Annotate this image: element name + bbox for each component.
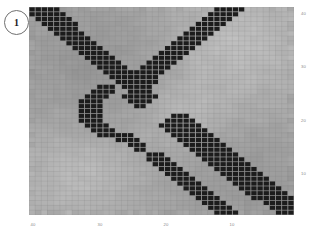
panel-label-text: 1 [14, 18, 19, 28]
y-axis-tick-label: 30 [301, 65, 306, 69]
y-axis-tick-label: 20 [301, 119, 306, 123]
x-axis-tick-label: 30 [98, 223, 103, 227]
figure-container: 1 4030201040302010 [0, 0, 319, 235]
x-axis-tick-label: 20 [164, 223, 169, 227]
panel-label-badge: 1 [4, 10, 29, 35]
y-axis-tick-label: 10 [301, 172, 306, 176]
x-axis-tick-label: 40 [31, 223, 36, 227]
heatmap-canvas[interactable] [29, 7, 294, 215]
y-axis-tick-label: 40 [301, 12, 306, 16]
heatmap-plot-area[interactable] [29, 7, 294, 215]
x-axis-tick-label: 10 [230, 223, 235, 227]
